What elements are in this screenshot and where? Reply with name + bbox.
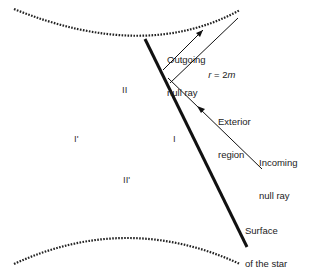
horizon-label-eq: = 2 xyxy=(211,69,227,80)
incoming-label-line2: null ray xyxy=(259,190,298,201)
past-singularity-curve xyxy=(14,238,240,264)
horizon-label: r = 2m xyxy=(203,58,236,80)
region-I-label: I xyxy=(173,133,176,144)
region-II-label: II xyxy=(122,84,127,95)
future-singularity-curve xyxy=(14,9,240,36)
incoming-label-line1: Incoming xyxy=(259,157,298,168)
region-I-prime-label: I' xyxy=(74,133,78,144)
surface-label-line1: Surface xyxy=(245,225,287,236)
exterior-region-label: Exterior region xyxy=(218,94,251,171)
surface-label-line2: of the star xyxy=(245,258,287,269)
exterior-label-line2: region xyxy=(218,149,251,160)
horizon-label-m: m xyxy=(228,69,236,80)
region-II-prime-label: II' xyxy=(123,174,130,185)
incoming-null-ray-label: Incoming null ray xyxy=(259,135,298,212)
outgoing-label-line2: null ray xyxy=(167,87,206,98)
outgoing-null-ray-label: Outgoing null ray xyxy=(167,32,206,109)
outgoing-label-line1: Outgoing xyxy=(167,54,206,65)
star-surface-label: Surface of the star xyxy=(245,203,287,276)
exterior-label-line1: Exterior xyxy=(218,116,251,127)
